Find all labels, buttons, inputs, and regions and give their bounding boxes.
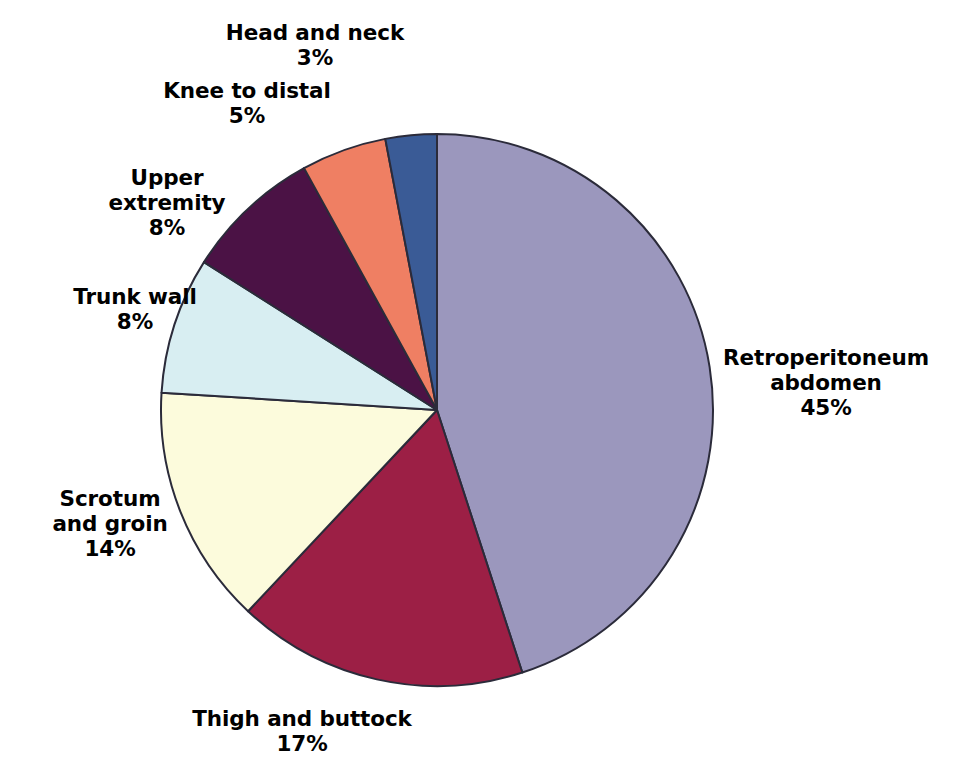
- pie-label-name-thigh-and-buttock: Thigh and buttock: [192, 707, 412, 732]
- pie-label-value-knee-to-distal: 5%: [163, 104, 330, 129]
- pie-chart: Retroperitoneum abdomen45%Thigh and butt…: [0, 0, 954, 775]
- pie-label-name-upper-extremity: Upper extremity: [108, 166, 225, 216]
- pie-label-thigh-and-buttock: Thigh and buttock17%: [192, 707, 412, 757]
- pie-label-value-scrotum-and-groin: 14%: [52, 536, 167, 561]
- pie-label-value-head-and-neck: 3%: [226, 46, 404, 71]
- pie-label-value-thigh-and-buttock: 17%: [192, 732, 412, 757]
- pie-label-name-knee-to-distal: Knee to distal: [163, 79, 330, 104]
- pie-label-value-retroperitoneum-abdomen: 45%: [723, 395, 929, 420]
- pie-label-value-upper-extremity: 8%: [108, 215, 225, 240]
- pie-label-name-head-and-neck: Head and neck: [226, 21, 404, 46]
- pie-label-retroperitoneum-abdomen: Retroperitoneum abdomen45%: [723, 346, 929, 421]
- pie-label-value-trunk-wall: 8%: [73, 310, 196, 335]
- pie-label-scrotum-and-groin: Scrotum and groin14%: [52, 487, 167, 562]
- pie-label-name-trunk-wall: Trunk wall: [73, 285, 196, 310]
- pie-label-knee-to-distal: Knee to distal5%: [163, 79, 330, 129]
- pie-label-trunk-wall: Trunk wall8%: [73, 285, 196, 335]
- pie-label-upper-extremity: Upper extremity8%: [108, 166, 225, 241]
- pie-label-name-scrotum-and-groin: Scrotum and groin: [52, 487, 167, 537]
- pie-label-head-and-neck: Head and neck3%: [226, 21, 404, 71]
- pie-label-name-retroperitoneum-abdomen: Retroperitoneum abdomen: [723, 346, 929, 396]
